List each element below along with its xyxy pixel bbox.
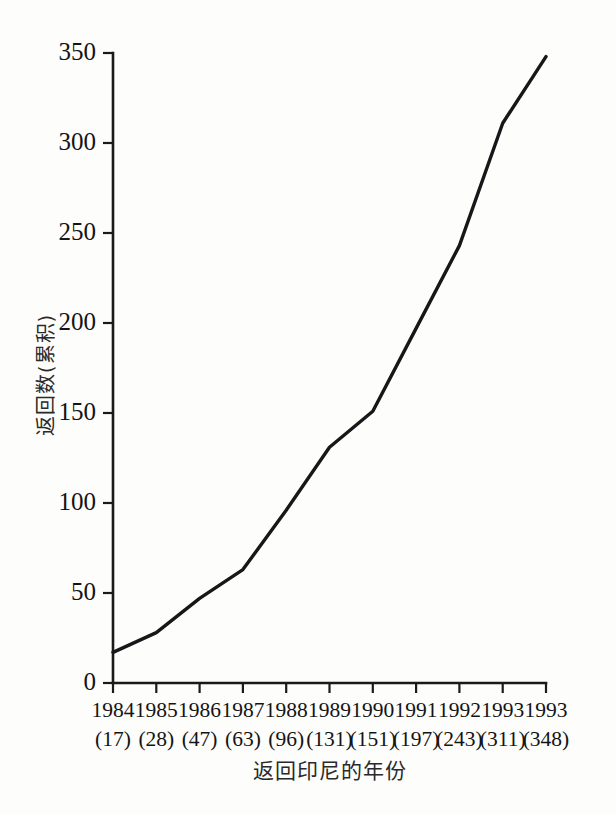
x-tick-count-label: (17)	[95, 727, 131, 751]
x-tick-count-label: (28)	[138, 727, 174, 751]
y-tick-label-200: 200	[59, 308, 97, 335]
y-tick-label-250: 250	[59, 218, 97, 245]
x-tick-year-label: 1986	[178, 698, 221, 722]
y-tick-label-100: 100	[59, 488, 97, 515]
y-tick-label-350: 350	[59, 38, 97, 65]
x-tick-count-label: (63)	[225, 727, 261, 751]
y-axis-tick-labels: 050100150200250300350	[59, 38, 97, 695]
x-axis-title: 返回印尼的年份	[253, 759, 407, 783]
x-tick-count-label: (348)	[523, 727, 570, 751]
x-tick-count-label: (131)	[306, 727, 353, 751]
x-tick-count-label: (151)	[350, 727, 397, 751]
x-tick-year-label: 1989	[308, 698, 351, 722]
chart-figure: 050100150200250300350 198419851986198719…	[0, 0, 616, 815]
x-axis-year-labels: 1984198519861987198819891990199119921993…	[92, 698, 568, 722]
x-tick-year-label: 1987	[221, 698, 264, 722]
x-tick-year-label: 1991	[395, 698, 438, 722]
y-axis-title: 返回数(累积)	[34, 314, 58, 437]
x-axis-ticks	[113, 683, 546, 693]
y-axis-ticks	[103, 53, 113, 683]
y-tick-label-150: 150	[59, 398, 97, 425]
y-tick-label-0: 0	[84, 668, 97, 695]
x-tick-count-label: (311)	[480, 727, 526, 751]
y-tick-label-50: 50	[71, 578, 96, 605]
x-tick-count-label: (243)	[436, 727, 483, 751]
x-axis-count-labels: (17)(28)(47)(63)(96)(131)(151)(197)(243)…	[95, 727, 569, 751]
x-tick-year-label: 1985	[135, 698, 178, 722]
x-tick-year-label: 1993	[525, 698, 568, 722]
x-tick-count-label: (197)	[393, 727, 440, 751]
x-tick-year-label: 1993	[481, 698, 524, 722]
x-tick-count-label: (47)	[182, 727, 218, 751]
x-tick-year-label: 1984	[92, 698, 135, 722]
x-tick-year-label: 1988	[265, 698, 308, 722]
cumulative-returns-line-chart: 050100150200250300350 198419851986198719…	[0, 0, 616, 815]
x-tick-year-label: 1992	[438, 698, 481, 722]
cumulative-returns-series	[113, 57, 546, 653]
y-tick-label-300: 300	[59, 128, 97, 155]
x-tick-count-label: (96)	[268, 727, 304, 751]
x-tick-year-label: 1990	[351, 698, 394, 722]
